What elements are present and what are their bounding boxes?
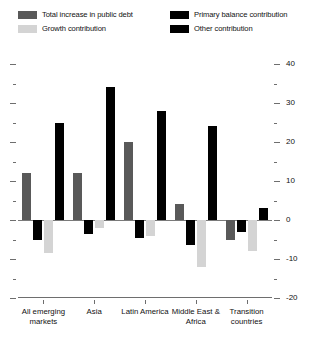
legend-label: Primary balance contribution	[194, 10, 287, 19]
legend-swatch-icon	[18, 11, 37, 19]
legend-swatch-icon	[170, 25, 189, 33]
legend-total-increase[interactable]: Total increase in public debt	[18, 10, 133, 19]
bar	[259, 208, 268, 220]
axis-tick-minor	[13, 123, 16, 124]
category-label: Latin America	[117, 307, 174, 317]
axis-tick-major	[10, 298, 16, 299]
axis-tick-major	[274, 181, 280, 182]
bottom-axis-line	[18, 297, 272, 298]
legend-swatch-icon	[18, 25, 37, 33]
bar	[157, 111, 166, 220]
bar	[33, 220, 42, 240]
bar	[248, 220, 257, 251]
axis-tick-minor	[274, 240, 277, 241]
bar	[135, 220, 144, 238]
category-label: Asia	[66, 307, 123, 317]
y-axis-tick-label: 10	[286, 177, 295, 185]
category-axis: All emerging marketsAsiaLatin AmericaMid…	[18, 300, 272, 344]
category-tick	[43, 300, 44, 304]
bar	[208, 126, 217, 220]
category-label: Transition countries	[218, 307, 275, 327]
axis-tick-minor	[13, 240, 16, 241]
axis-tick-major	[10, 142, 16, 143]
y-axis-tick-label: -20	[286, 294, 298, 302]
plot-area: 403020100-10-20	[18, 64, 272, 298]
legend-label: Other contribution	[194, 24, 253, 33]
axis-tick-major	[274, 142, 280, 143]
axis-tick-minor	[274, 84, 277, 85]
axis-tick-major	[274, 220, 280, 221]
category-tick	[247, 300, 248, 304]
axis-tick-major	[10, 259, 16, 260]
chart-legend: Total increase in public debtGrowth cont…	[18, 10, 318, 46]
axis-tick-minor	[274, 279, 277, 280]
legend-growth[interactable]: Growth contribution	[18, 24, 106, 33]
category-tick	[94, 300, 95, 304]
bar	[106, 87, 115, 220]
axis-tick-minor	[13, 84, 16, 85]
category-tick	[196, 300, 197, 304]
axis-tick-minor	[274, 201, 277, 202]
bar	[226, 220, 235, 240]
bar	[237, 220, 246, 232]
bar	[73, 173, 82, 220]
chart-figure: Total increase in public debtGrowth cont…	[0, 0, 328, 347]
bar	[186, 220, 195, 245]
category-label: Middle East & Africa	[167, 307, 224, 327]
bar	[84, 220, 93, 234]
legend-primary-balance[interactable]: Primary balance contribution	[170, 10, 287, 19]
axis-tick-major	[274, 64, 280, 65]
bar	[44, 220, 53, 253]
axis-tick-major	[10, 103, 16, 104]
axis-tick-major	[10, 220, 16, 221]
axis-tick-minor	[13, 201, 16, 202]
bar	[124, 142, 133, 220]
y-axis-tick-label: 40	[286, 60, 295, 68]
axis-tick-minor	[274, 162, 277, 163]
bar	[197, 220, 206, 267]
y-axis-tick-label: -10	[286, 255, 298, 263]
category-tick	[145, 300, 146, 304]
axis-tick-major	[10, 181, 16, 182]
axis-tick-major	[274, 103, 280, 104]
legend-other[interactable]: Other contribution	[170, 24, 253, 33]
y-axis-tick-label: 20	[286, 138, 295, 146]
y-axis-tick-label: 30	[286, 99, 295, 107]
axis-tick-major	[10, 64, 16, 65]
legend-label: Total increase in public debt	[42, 10, 133, 19]
axis-tick-major	[274, 259, 280, 260]
legend-swatch-icon	[170, 11, 189, 19]
axis-tick-minor	[13, 162, 16, 163]
bar	[95, 220, 104, 228]
axis-tick-minor	[274, 123, 277, 124]
bar	[55, 123, 64, 221]
bar	[146, 220, 155, 236]
bar	[175, 204, 184, 220]
y-axis-tick-label: 0	[286, 216, 290, 224]
bar	[22, 173, 31, 220]
legend-label: Growth contribution	[42, 24, 106, 33]
axis-tick-major	[274, 298, 280, 299]
axis-tick-minor	[13, 279, 16, 280]
category-label: All emerging markets	[15, 307, 72, 327]
